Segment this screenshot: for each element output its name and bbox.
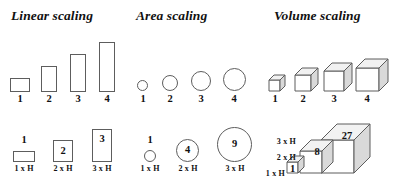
area-top-circle-2 xyxy=(162,75,178,91)
volume-top-label-3: 3 xyxy=(324,93,344,104)
linear-bottom-rect-1 xyxy=(13,151,35,162)
volume-top-label-4: 4 xyxy=(357,93,377,104)
linear-top-rect-1 xyxy=(10,78,30,92)
linear-top-label-4: 4 xyxy=(99,93,115,104)
volume-top-label-2: 2 xyxy=(293,93,313,104)
volume-bottom-value-2: 8 xyxy=(310,146,324,157)
scaling-diagram: Linear scaling 1 2 3 4 1 1 x H 2 2 x H 3… xyxy=(0,0,393,186)
panel-title-area: Area scaling xyxy=(136,8,207,24)
area-top-label-4: 4 xyxy=(224,93,244,104)
area-top-label-3: 3 xyxy=(191,93,211,104)
linear-top-label-1: 1 xyxy=(10,93,30,104)
volume-bottom-value-1: 1 xyxy=(287,163,298,174)
volume-bottom-value-3: 27 xyxy=(337,130,357,141)
volume-top-label-1: 1 xyxy=(265,93,285,104)
linear-bottom-value-2: 2 xyxy=(53,145,73,156)
area-top-label-1: 1 xyxy=(133,93,153,104)
area-bottom-value-3: 9 xyxy=(217,138,252,149)
area-bottom-value-2: 4 xyxy=(176,144,199,155)
linear-bottom-caption-3: 3 x H xyxy=(84,164,120,173)
linear-top-rect-4 xyxy=(99,42,115,92)
linear-bottom-value-3: 3 xyxy=(92,133,112,144)
area-bottom-value-1: 1 xyxy=(144,134,156,145)
panel-volume-scaling: Volume scaling xyxy=(262,0,393,186)
area-bottom-caption-3: 3 x H xyxy=(217,164,253,173)
linear-top-label-3: 3 xyxy=(70,93,86,104)
linear-bottom-caption-1: 1 x H xyxy=(6,164,42,173)
volume-bottom-caption-2: 2 x H xyxy=(260,153,296,162)
panel-area-scaling: Area scaling 1 2 3 4 1 1 x H 4 2 x H 9 3… xyxy=(131,0,262,186)
panel-title-volume: Volume scaling xyxy=(274,8,361,24)
linear-bottom-value-1: 1 xyxy=(13,134,35,145)
volume-top-cubes xyxy=(262,48,393,96)
linear-top-label-2: 2 xyxy=(41,93,57,104)
area-bottom-caption-1: 1 x H xyxy=(132,164,168,173)
area-top-circle-1 xyxy=(137,80,148,91)
panel-linear-scaling: Linear scaling 1 2 3 4 1 1 x H 2 2 x H 3… xyxy=(0,0,131,186)
volume-bottom-caption-1: 1 x H xyxy=(249,169,285,178)
area-bottom-caption-2: 2 x H xyxy=(170,164,206,173)
area-top-label-2: 2 xyxy=(160,93,180,104)
linear-top-rect-3 xyxy=(70,54,86,92)
area-top-circle-4 xyxy=(223,68,246,91)
panel-title-linear: Linear scaling xyxy=(11,8,93,24)
linear-top-rect-2 xyxy=(41,66,57,92)
linear-bottom-caption-2: 2 x H xyxy=(45,164,81,173)
area-bottom-circle-1 xyxy=(144,150,156,162)
area-top-circle-3 xyxy=(191,71,211,91)
volume-bottom-caption-3: 3 x H xyxy=(260,137,296,146)
